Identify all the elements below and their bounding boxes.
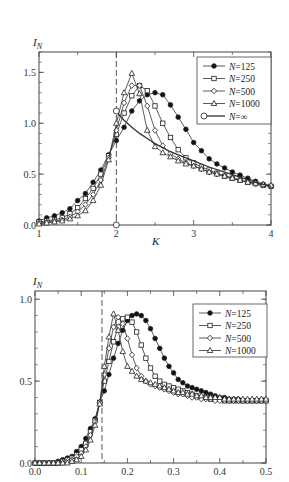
open-square-marker — [153, 104, 157, 108]
open-square-marker — [139, 343, 143, 347]
filled-circle-marker — [111, 356, 116, 361]
open-square-marker — [168, 135, 172, 139]
filled-circle-marker — [116, 341, 121, 346]
open-square-marker — [130, 320, 134, 324]
open-triangle-marker — [90, 198, 96, 203]
legend-label: N=125 — [224, 309, 251, 319]
plot-area: 0.00.10.20.30.40.50.00.51.0N=125N=250N=5… — [20, 291, 273, 477]
open-square-marker — [134, 330, 138, 334]
open-square-marker — [144, 356, 148, 360]
y-tick-label: 0.5 — [24, 169, 37, 180]
open-diamond-marker — [152, 128, 157, 134]
open-square-marker — [176, 147, 180, 151]
open-square-marker — [153, 374, 157, 378]
filled-circle-marker — [139, 313, 144, 318]
filled-circle-marker — [144, 318, 149, 323]
legend-open-square-marker — [212, 76, 216, 80]
filled-circle-marker — [222, 166, 227, 171]
x-tick-label: 0.5 — [260, 466, 273, 477]
filled-circle-marker — [171, 371, 176, 376]
open-diamond-marker — [125, 336, 130, 342]
x-tick-label: 2 — [114, 228, 119, 239]
x-tick-label: 0.2 — [121, 466, 134, 477]
filled-circle-marker — [167, 364, 172, 369]
x-tick-label: 4 — [269, 228, 274, 239]
open-triangle-marker — [129, 70, 135, 75]
filled-circle-marker — [148, 326, 153, 331]
open-diamond-marker — [111, 324, 116, 330]
open-diamond-marker — [129, 352, 134, 358]
open-square-marker — [122, 111, 126, 115]
filled-circle-marker — [75, 198, 80, 203]
y-tick-label: 0.0 — [24, 220, 37, 231]
plot-area: 12340.00.51.01.5N=125N=250N=500N=1000N=∞ — [24, 52, 274, 239]
legend-label: N=1000 — [224, 346, 256, 356]
legend-open-square-marker — [208, 323, 212, 327]
open-square-marker — [107, 359, 111, 363]
filled-circle-marker — [134, 312, 139, 317]
legend-label: N=500 — [224, 334, 251, 344]
open-square-marker — [161, 121, 165, 125]
y-tick-label: 1.5 — [24, 67, 37, 78]
open-triangle-marker — [144, 127, 150, 132]
y-tick-label: 0.0 — [20, 458, 33, 469]
open-square-marker — [83, 196, 87, 200]
open-triangle-marker — [125, 363, 131, 368]
filled-circle-marker — [190, 385, 195, 390]
filled-circle-marker — [83, 191, 88, 196]
filled-circle-marker — [122, 125, 127, 130]
open-triangle-marker — [120, 349, 126, 354]
open-diamond-marker — [145, 103, 150, 109]
y-tick-label: 1.0 — [20, 294, 33, 305]
open-square-marker — [111, 340, 115, 344]
chart-bottom-k-0-to-0.5: IN 0.00.10.20.30.40.50.00.51.0N=125N=250… — [20, 275, 273, 477]
open-diamond-marker — [129, 83, 134, 89]
filled-circle-marker — [153, 90, 158, 95]
filled-circle-marker — [162, 356, 167, 361]
open-square-marker — [145, 88, 149, 92]
y-tick-label: 0.5 — [20, 376, 33, 387]
y-axis-title: IN — [32, 275, 43, 290]
x-tick-label: 1 — [37, 228, 42, 239]
x-tick-label: 0.4 — [214, 466, 227, 477]
filled-circle-marker — [184, 127, 189, 132]
open-circle-marker — [113, 108, 119, 114]
legend-label: N=1000 — [228, 99, 260, 109]
open-triangle-marker — [75, 213, 81, 218]
open-circle-marker — [113, 222, 119, 228]
filled-circle-marker — [176, 377, 181, 382]
y-axis-title: IN — [32, 36, 43, 51]
filled-circle-marker — [191, 140, 196, 145]
legend: N=125N=250N=500N=1000 — [193, 304, 267, 357]
legend-label: N=125 — [228, 62, 255, 72]
filled-circle-marker — [153, 336, 158, 341]
chart-top-k-1-to-4: IN K 12340.00.51.01.5N=125N=250N=500N=10… — [24, 36, 274, 247]
legend: N=125N=250N=500N=1000N=∞ — [197, 57, 271, 124]
filled-circle-marker — [181, 380, 186, 385]
filled-circle-marker — [130, 109, 135, 114]
x-tick-label: 0.3 — [167, 466, 180, 477]
x-tick-label: 3 — [191, 228, 196, 239]
open-square-marker — [130, 94, 134, 98]
legend-filled-circle-marker — [208, 311, 213, 316]
open-triangle-marker — [111, 311, 117, 316]
filled-circle-marker — [91, 180, 96, 185]
figure: IN K 12340.00.51.01.5N=125N=250N=500N=10… — [0, 0, 289, 482]
filled-circle-marker — [215, 162, 220, 167]
y-tick-label: 1.0 — [24, 118, 37, 129]
legend-label: N=500 — [228, 87, 255, 97]
legend-label: N=250 — [224, 321, 251, 331]
legend-open-circle-line-marker — [201, 113, 207, 119]
filled-circle-marker — [199, 148, 204, 153]
filled-circle-marker — [185, 384, 190, 389]
filled-circle-marker — [130, 313, 135, 318]
filled-circle-marker — [207, 157, 212, 162]
filled-circle-marker — [157, 346, 162, 351]
filled-circle-marker — [194, 387, 199, 392]
open-triangle-marker — [106, 334, 112, 339]
legend-label: N=250 — [228, 74, 255, 84]
x-axis-title: K — [151, 235, 160, 247]
x-tick-label: 0.1 — [75, 466, 88, 477]
filled-circle-marker — [68, 206, 73, 211]
filled-circle-marker — [168, 103, 173, 108]
